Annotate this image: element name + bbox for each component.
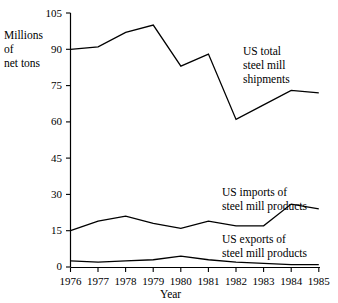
y-axis-title-line-2: of xyxy=(4,42,14,56)
x-axis-title: Year xyxy=(160,288,181,301)
x-tick-label-1984: 1984 xyxy=(276,275,306,288)
x-axis-ticks xyxy=(71,268,319,273)
x-tick-label-1976: 1976 xyxy=(56,275,86,288)
annotation-total-shipments-line-3: shipments xyxy=(243,72,290,86)
annotation-exports-line-1: US exports of xyxy=(222,232,286,246)
annotation-exports-line-2: steel mill products xyxy=(222,246,307,260)
y-axis-ticks xyxy=(66,13,71,267)
x-tick-label-1980: 1980 xyxy=(166,275,196,288)
y-axis-title-line-1: Millions xyxy=(4,28,43,42)
annotation-imports-line-2: steel mill products xyxy=(222,199,307,213)
x-tick-label-1978: 1978 xyxy=(111,275,141,288)
x-tick-label-1977: 1977 xyxy=(83,275,113,288)
y-tick-label-15: 15 xyxy=(36,224,62,237)
annotation-imports-line-1: US imports of xyxy=(222,185,287,199)
x-tick-label-1982: 1982 xyxy=(221,275,251,288)
y-tick-label-90: 90 xyxy=(36,43,62,56)
y-tick-label-75: 75 xyxy=(36,79,62,92)
x-tick-label-1979: 1979 xyxy=(138,275,168,288)
x-tick-label-1985: 1985 xyxy=(304,275,334,288)
y-tick-label-60: 60 xyxy=(36,115,62,128)
annotation-total-shipments-line-2: steel mill xyxy=(243,58,285,72)
line-chart: 105 90 75 60 45 30 15 0 Millions of net … xyxy=(0,0,338,303)
y-tick-label-30: 30 xyxy=(36,188,62,201)
x-tick-label-1983: 1983 xyxy=(249,275,279,288)
y-tick-label-0: 0 xyxy=(36,260,62,273)
y-tick-label-105: 105 xyxy=(36,7,62,20)
x-tick-label-1981: 1981 xyxy=(193,275,223,288)
annotation-total-shipments-line-1: US total xyxy=(243,44,281,58)
y-axis-title-line-3: net tons xyxy=(4,56,40,70)
y-tick-label-45: 45 xyxy=(36,152,62,165)
